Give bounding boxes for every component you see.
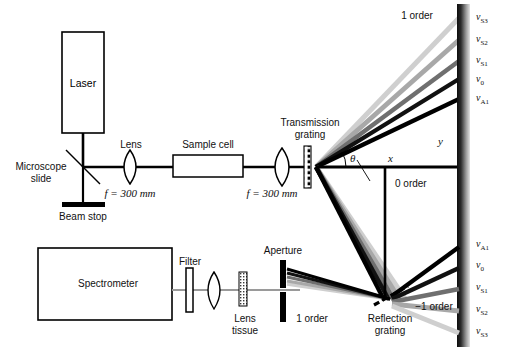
filter-label: Filter: [179, 256, 201, 267]
aperture-lower-blade: [280, 292, 286, 322]
aperture-upper-blade: [280, 260, 286, 288]
lens-tissue-label-line2: tissue: [232, 325, 258, 336]
order-label-plus-one-top: 1 order: [401, 10, 433, 21]
spectrometer-label: Spectrometer: [78, 278, 138, 289]
transmission-grating-label-line2: grating: [295, 129, 326, 140]
screen-label-bottom-4: νS3: [476, 325, 488, 339]
screen-label-top-0: νS3: [476, 11, 488, 25]
reflection-grating-label-line2: grating: [375, 325, 406, 336]
screen-label-top-4: νA1: [476, 92, 489, 106]
filter-element: [186, 268, 193, 312]
axis-label-theta: θ: [350, 152, 355, 164]
beam-stop-plate: [62, 202, 105, 207]
optical-diagram: Laser Lens f = 300 mm Sample cell f = 30…: [0, 0, 508, 351]
microscope-slide-label-line1: Microscope: [15, 161, 66, 172]
diagram-canvas: [0, 0, 508, 351]
transmission-grating-label-line1: Transmission: [280, 117, 339, 128]
lens-1-focal-label: f = 300 mm: [104, 187, 155, 199]
transmission-grating-element: [304, 146, 311, 188]
lens-3-element: [208, 272, 220, 309]
axis-label-x: x: [388, 152, 393, 164]
lens-1-element: [124, 150, 136, 184]
order-label-zero: 0 order: [395, 178, 427, 189]
axis-label-y: y: [438, 135, 443, 147]
order-label-minus-one: −1 order: [415, 301, 453, 312]
sample-cell-label: Sample cell: [182, 139, 234, 150]
theta-pointer: [357, 160, 370, 181]
microscope-slide-label-line2: slide: [31, 173, 52, 184]
screen-bar: [457, 4, 470, 347]
screen-label-top-1: νS2: [476, 33, 488, 47]
beam-stop-label: Beam stop: [59, 211, 107, 222]
lens-2-element: [275, 148, 289, 186]
screen-label-bottom-2: νS1: [476, 281, 488, 295]
aperture-label: Aperture: [264, 245, 302, 256]
beam-upper-s2: [316, 40, 459, 167]
order-label-plus-one-bottom: 1 order: [296, 313, 328, 324]
lens-tissue-element: [239, 272, 247, 306]
lens-2-focal-label: f = 300 mm: [246, 187, 297, 199]
screen-label-bottom-1: ν0: [476, 259, 484, 273]
laser-label: Laser: [70, 77, 96, 89]
lens-tissue-label-line1: Lens: [234, 313, 256, 324]
lens-1-label: Lens: [120, 139, 142, 150]
screen-label-bottom-3: νS2: [476, 303, 488, 317]
screen-label-top-3: ν0: [476, 73, 484, 87]
screen-label-top-2: νS1: [476, 54, 488, 68]
sample-cell-element: [173, 155, 243, 177]
screen-label-bottom-0: νA1: [476, 238, 489, 252]
reflection-grating-label-line1: Reflection: [368, 313, 412, 324]
